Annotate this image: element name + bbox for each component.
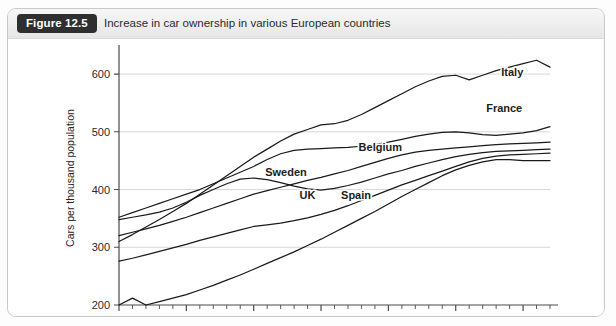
series-label-belgium: Belgium: [359, 141, 403, 153]
chart-svg: 2003004005006001980198519901995200020052…: [8, 39, 605, 317]
x-axis-tick-label: 2000: [376, 314, 400, 317]
figure-caption-text: Increase in car ownership in various Eur…: [104, 14, 390, 33]
y-axis-title: Cars per thousand population: [64, 109, 76, 247]
x-axis-tick-label: 2005: [443, 314, 467, 317]
series-label-france: France: [486, 102, 522, 114]
figure-number-badge: Figure 12.5: [17, 14, 97, 33]
series-line-uk: [119, 153, 550, 261]
y-axis-tick-label: 400: [92, 184, 110, 196]
series-label-spain: Spain: [341, 189, 371, 201]
x-axis-tick-label: 1990: [241, 314, 265, 317]
series-label-italy: Italy: [501, 66, 524, 78]
y-axis-tick-label: 300: [92, 241, 110, 253]
x-axis-tick-label: 2010: [511, 314, 535, 317]
line-chart: 2003004005006001980198519901995200020052…: [8, 39, 605, 317]
figure-card: Figure 12.5 Increase in car ownership in…: [7, 8, 605, 317]
y-axis-tick-label: 600: [92, 68, 110, 80]
series-line-spain: [119, 160, 550, 305]
screenshot-root: Figure 12.5 Increase in car ownership in…: [0, 0, 616, 326]
series-line-sweden: [119, 149, 550, 219]
series-label-uk: UK: [300, 189, 316, 201]
x-axis-tick-label: 1980: [107, 314, 131, 317]
y-axis-tick-label: 200: [92, 299, 110, 311]
figure-caption-bar: Figure 12.5 Increase in car ownership in…: [8, 9, 604, 39]
x-axis-tick-label: 1995: [309, 314, 333, 317]
chart-panel: 2003004005006001980198519901995200020052…: [8, 39, 604, 317]
y-axis-tick-label: 500: [92, 126, 110, 138]
series-label-sweden: Sweden: [265, 166, 307, 178]
series-line-italy: [119, 60, 550, 241]
x-axis-tick-label: 1985: [174, 314, 198, 317]
